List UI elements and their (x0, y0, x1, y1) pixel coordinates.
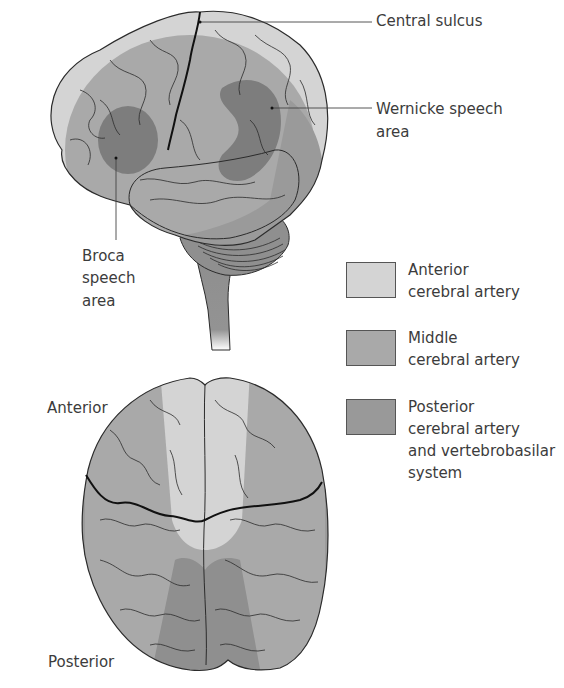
wernicke-label-line1: Wernicke speech (376, 99, 503, 119)
legend-item-anterior: Anterior cerebral artery (346, 259, 520, 303)
lateral-brain (0, 0, 372, 350)
legend-anterior-line1: Anterior (408, 259, 520, 281)
legend-posterior-line4: system (408, 462, 555, 484)
legend-middle-line2: cerebral artery (408, 349, 520, 371)
legend-anterior-line2: cerebral artery (408, 281, 520, 303)
anterior-swatch (346, 262, 396, 298)
broca-label-line2: speech (82, 268, 136, 288)
broca-label-line3: area (82, 291, 115, 311)
legend-posterior-line2: cerebral artery (408, 418, 555, 440)
legend-item-middle: Middle cerebral artery (346, 327, 520, 371)
wernicke-label-line2: area (376, 122, 409, 142)
legend-posterior-line1: Posterior (408, 396, 555, 418)
anterior-label: Anterior (47, 398, 108, 418)
broca-label-line1: Broca (82, 246, 125, 266)
legend-posterior-line3: and vertebrobasilar (408, 440, 555, 462)
legend-middle-line1: Middle (408, 327, 520, 349)
posterior-label: Posterior (48, 652, 114, 672)
middle-swatch (346, 330, 396, 366)
central-sulcus-label: Central sulcus (376, 11, 482, 31)
legend-item-posterior: Posterior cerebral artery and vertebroba… (346, 396, 555, 484)
posterior-swatch (346, 399, 396, 435)
